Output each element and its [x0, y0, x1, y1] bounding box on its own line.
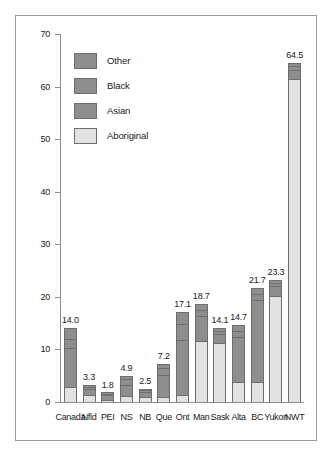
bar-segment-asian	[288, 70, 301, 79]
chart-legend: OtherBlackAsianAboriginal	[74, 48, 148, 148]
y-axis-tick-label: 60	[16, 83, 50, 92]
bar-value-label: 1.8	[93, 381, 123, 390]
bar-canada[interactable]	[64, 328, 77, 402]
bar-value-label: 18.7	[186, 292, 216, 301]
bar-segment-asian	[176, 340, 189, 395]
y-axis-tick-label: 10	[16, 345, 50, 354]
legend-swatch-other-icon	[74, 53, 97, 69]
legend-label: Other	[107, 55, 130, 66]
legend-item-black[interactable]: Black	[74, 73, 148, 98]
bar-segment-aboriginal	[83, 395, 96, 402]
bar-segment-asian	[269, 286, 282, 296]
bar-segment-aboriginal	[213, 343, 226, 402]
y-axis-tick-label: 50	[16, 135, 50, 144]
bar-segment-black	[64, 339, 77, 347]
bar-segment-aboriginal	[176, 395, 189, 402]
bar-segment-black	[176, 324, 189, 340]
bar-segment-aboriginal	[232, 382, 245, 402]
legend-label: Black	[107, 80, 130, 91]
bar-segment-aboriginal	[195, 341, 208, 402]
bar-segment-aboriginal	[139, 397, 152, 402]
legend-swatch-aboriginal-icon	[74, 128, 97, 144]
bar-value-label: 23.3	[261, 268, 291, 277]
legend-item-other[interactable]: Other	[74, 48, 148, 73]
bar-value-label: 4.9	[111, 364, 141, 373]
bar-segment-other	[176, 312, 189, 324]
y-axis-tick-label: 20	[16, 293, 50, 302]
bar-segment-aboriginal	[101, 400, 114, 402]
legend-label: Asian	[107, 105, 130, 116]
legend-swatch-black-icon	[74, 78, 97, 94]
bar-value-label: 7.2	[149, 352, 179, 361]
bar-segment-aboriginal	[288, 79, 301, 402]
bar-segment-aboriginal	[269, 296, 282, 402]
y-axis-tick-label: 70	[16, 30, 50, 39]
bar-yukon[interactable]	[269, 280, 282, 402]
bar-value-label: 64.5	[280, 51, 310, 60]
bar-segment-aboriginal	[251, 382, 264, 403]
y-axis-tick-label: 40	[16, 188, 50, 197]
bar-nb[interactable]	[139, 389, 152, 402]
bar-segment-asian	[213, 334, 226, 343]
legend-label: Aboriginal	[107, 130, 148, 141]
legend-swatch-asian-icon	[74, 103, 97, 119]
bar-segment-aboriginal	[64, 387, 77, 402]
bar-segment-asian	[232, 337, 245, 382]
y-axis-tick-label: 0	[16, 398, 50, 407]
x-axis-line	[60, 402, 304, 403]
bar-segment-other	[64, 328, 77, 339]
bar-segment-aboriginal	[120, 396, 133, 402]
bar-bc[interactable]	[251, 288, 264, 402]
bar-value-label: 14.7	[224, 313, 254, 322]
bar-nwt[interactable]	[288, 63, 301, 402]
bar-alta[interactable]	[232, 325, 245, 402]
bar-segment-aboriginal	[157, 397, 170, 402]
bar-value-label: 21.7	[242, 276, 272, 285]
chart-figure: 010203040506070 14.03.31.84.92.57.217.11…	[15, 15, 317, 441]
legend-item-aboriginal[interactable]: Aboriginal	[74, 123, 148, 148]
bar-value-label: 17.1	[168, 300, 198, 309]
bar-segment-black	[157, 368, 170, 375]
y-axis-tick-label: 30	[16, 240, 50, 249]
bar-sask[interactable]	[213, 328, 226, 402]
bar-value-label: 14.0	[55, 316, 85, 325]
x-axis-label-nwt: NWT	[273, 412, 317, 422]
legend-item-asian[interactable]: Asian	[74, 98, 148, 123]
bar-pei[interactable]	[101, 392, 114, 402]
bar-value-label: 2.5	[130, 377, 160, 386]
